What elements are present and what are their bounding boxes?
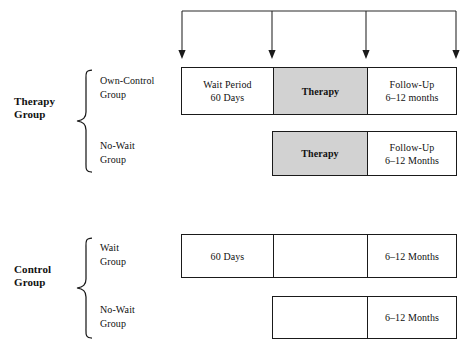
cell-therapy: Therapy <box>273 132 367 175</box>
timeline-row-therapy-no-wait-group: Therapy Follow-Up 6–12 Months <box>272 131 457 176</box>
assessment-3-arrowhead <box>362 50 369 59</box>
cell-wait-period: Wait Period 60 Days <box>182 68 273 114</box>
group-label-therapy-line1: Therapy <box>14 95 55 107</box>
group-label-therapy-line2: Group <box>14 108 45 120</box>
group-label-control-line1: Control <box>14 263 51 275</box>
cell-follow-up: Follow-Up 6–12 Months <box>367 132 456 175</box>
cell-follow-up: 6–12 Months <box>367 235 456 277</box>
assessment-2-arrowhead <box>268 50 275 59</box>
arm-label-therapy-no-wait-line1: No-Wait <box>100 140 135 151</box>
arm-label-own-control-line2: Group <box>100 89 126 100</box>
timeline-row-control-no-wait-group: 6–12 Months <box>272 296 457 339</box>
cell-follow-up: 6–12 Months <box>367 297 456 338</box>
arm-label-control-no-wait-group: No-Wait Group <box>100 303 135 330</box>
cell-wait-period-line1: Wait Period <box>203 78 251 91</box>
cell-follow-up-line1: Follow-Up <box>390 141 435 154</box>
arm-label-control-no-wait-line1: No-Wait <box>100 304 135 315</box>
cell-follow-up-line2: 6–12 months <box>385 91 438 104</box>
arm-label-wait-group: Wait Group <box>100 241 126 268</box>
timeline-row-wait-group: 60 Days 6–12 Months <box>181 234 457 278</box>
arm-label-wait-line1: Wait <box>100 242 119 253</box>
timeline-row-own-control-group: Wait Period 60 Days Therapy Follow-Up 6–… <box>181 67 457 115</box>
brace-therapy-group <box>74 68 96 174</box>
cell-therapy-line1: Therapy <box>301 147 338 160</box>
brace-control-group <box>74 236 96 340</box>
cell-follow-up-line1: Follow-Up <box>390 78 435 91</box>
cell-follow-up-line1: 6–12 Months <box>385 250 439 263</box>
assessment-1-arrowhead <box>178 50 185 59</box>
arm-label-control-no-wait-line2: Group <box>100 318 126 329</box>
arm-label-own-control-line1: Own-Control <box>100 75 154 86</box>
arm-label-wait-line2: Group <box>100 256 126 267</box>
cell-no-treatment <box>273 235 367 277</box>
cell-follow-up-line2: 6–12 Months <box>385 154 439 167</box>
arm-label-own-control-group: Own-Control Group <box>100 74 154 101</box>
arm-label-therapy-no-wait-group: No-Wait Group <box>100 139 135 166</box>
cell-follow-up: Follow-Up 6–12 months <box>367 68 456 114</box>
study-design-diagram: Therapy Group Own-Control Group Wait Per… <box>0 0 474 341</box>
assessment-timeline <box>0 0 474 70</box>
cell-wait-period-line2: 60 Days <box>211 91 245 104</box>
cell-wait-period-line1: 60 Days <box>211 250 245 263</box>
cell-follow-up-line1: 6–12 Months <box>385 311 439 324</box>
arm-label-therapy-no-wait-line2: Group <box>100 154 126 165</box>
cell-therapy-line1: Therapy <box>302 85 339 98</box>
cell-wait-period: 60 Days <box>182 235 273 277</box>
group-label-control-line2: Group <box>14 276 45 288</box>
cell-therapy: Therapy <box>273 68 367 114</box>
assessment-4-arrowhead <box>452 50 459 59</box>
cell-no-treatment <box>273 297 367 338</box>
